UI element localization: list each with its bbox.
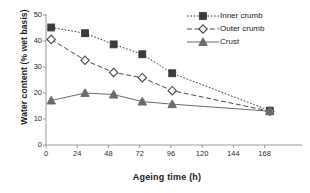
data-point-marker-diamond — [109, 68, 117, 76]
legend-item-label: Crust — [220, 37, 239, 46]
legend-key-glyph — [186, 36, 220, 48]
data-point-marker-diamond — [81, 56, 89, 64]
series-line — [51, 39, 270, 111]
data-point-marker-triangle — [81, 89, 89, 97]
legend-key-icon — [186, 36, 220, 48]
data-point-marker-square — [82, 30, 89, 37]
legend-marker-diamond — [199, 24, 207, 32]
legend-item-outer-crumb: Outer crumb — [186, 22, 304, 35]
data-point-marker-square — [139, 51, 146, 58]
chart-figure: Water content (% wet basis) 01020304050 … — [0, 0, 310, 193]
legend-key-glyph — [186, 10, 220, 22]
legend-key-icon — [186, 23, 220, 35]
data-point-marker-diamond — [47, 35, 55, 43]
series-crust — [47, 89, 274, 115]
legend-key-glyph — [186, 23, 220, 35]
data-point-marker-diamond — [168, 86, 176, 94]
legend-item-label: Outer crumb — [220, 24, 264, 33]
legend-item-label: Inner crumb — [220, 11, 263, 20]
data-point-marker-square — [169, 70, 176, 77]
legend-key-icon — [186, 10, 220, 22]
legend-item-inner-crumb: Inner crumb — [186, 9, 304, 22]
legend-marker-square — [200, 12, 207, 19]
data-point-marker-square — [48, 24, 55, 31]
chart-legend: Inner crumbOuter crumbCrust — [186, 9, 304, 48]
legend-item-crust: Crust — [186, 35, 304, 48]
data-point-marker-square — [110, 41, 117, 48]
data-point-marker-diamond — [138, 73, 146, 81]
